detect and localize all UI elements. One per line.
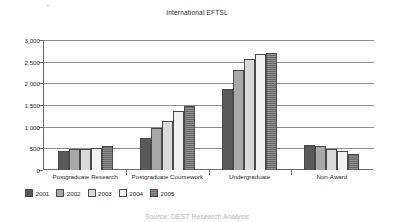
chart-legend: 20012002200320042005 <box>25 189 178 197</box>
bar <box>244 59 255 170</box>
legend-label: 2003 <box>98 190 112 197</box>
legend-item[interactable]: 2004 <box>119 189 143 197</box>
bar <box>348 154 359 170</box>
y-tick-label: 500 <box>6 145 40 152</box>
scan-speck: + <box>46 4 49 7</box>
bar <box>80 149 91 170</box>
x-tick-mark <box>291 170 292 175</box>
x-tick-mark <box>126 170 127 175</box>
chart-title: International EFTSL <box>0 9 394 16</box>
footer-source-text: Source: DEST Research Analysis <box>0 214 394 220</box>
bar <box>58 151 69 171</box>
bar <box>304 145 315 170</box>
bar-group <box>291 40 373 170</box>
bar <box>266 53 277 170</box>
legend-label: 2004 <box>129 190 143 197</box>
chart-container: + International EFTSL 05001,0001,5002,00… <box>0 0 394 222</box>
bar <box>337 151 348 171</box>
legend-swatch <box>56 189 64 197</box>
y-tick-label: 0 <box>6 167 40 174</box>
legend-item[interactable]: 2001 <box>25 189 49 197</box>
legend-label: 2001 <box>36 190 50 197</box>
legend-item[interactable]: 2003 <box>88 189 112 197</box>
bar <box>69 149 80 170</box>
bar <box>151 128 162 170</box>
legend-item[interactable]: 2005 <box>150 189 174 197</box>
legend-swatch <box>88 189 96 197</box>
bar <box>173 111 184 170</box>
legend-label: 2002 <box>67 190 81 197</box>
bar <box>315 146 326 170</box>
legend-swatch <box>119 189 127 197</box>
bar <box>222 89 233 170</box>
bar-group <box>209 40 291 170</box>
x-category-label: Postgraduate Research <box>44 173 126 180</box>
legend-swatch <box>150 189 158 197</box>
bar <box>91 148 102 170</box>
bar <box>233 70 244 170</box>
y-tick-label: 2,000 <box>6 80 40 87</box>
x-tick-mark <box>209 170 210 175</box>
x-category-label: Postgraduate Coursework <box>126 173 208 180</box>
bar <box>255 54 266 170</box>
bar-group <box>44 40 126 170</box>
legend-item[interactable]: 2002 <box>56 189 80 197</box>
bar-groups <box>44 40 373 170</box>
legend-label: 2005 <box>161 190 175 197</box>
bar <box>140 138 151 170</box>
y-tick-label: 1,000 <box>6 123 40 130</box>
bar <box>326 149 337 170</box>
x-category-label: Undergraduate <box>209 173 291 180</box>
y-tick-label: 2,500 <box>6 58 40 65</box>
legend-swatch <box>25 189 33 197</box>
y-tick-label: 3,000 <box>6 37 40 44</box>
y-tick-label: 1,500 <box>6 102 40 109</box>
footer-source-clip: Source: DEST Research Analysis <box>0 214 394 222</box>
bar-group <box>126 40 208 170</box>
bar <box>162 121 173 170</box>
bar <box>102 146 113 170</box>
bar <box>184 106 195 170</box>
x-category-label: Non-Award <box>291 173 373 180</box>
